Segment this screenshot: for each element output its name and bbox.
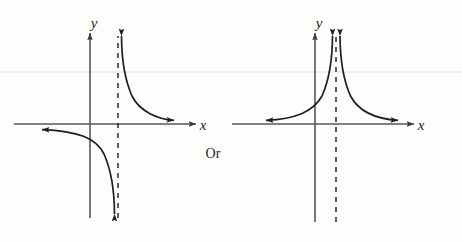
left-panel-x-axis-label: x bbox=[199, 117, 207, 133]
right-panel-x-axis-label: x bbox=[417, 117, 425, 133]
figure-root: y x Or y x bbox=[0, 0, 462, 241]
left-panel-upper-right-branch bbox=[122, 36, 175, 120]
right-panel-left-branch bbox=[266, 36, 333, 120]
left-panel-lower-left-branch bbox=[42, 130, 115, 214]
right-panel-right-branch bbox=[340, 36, 398, 120]
right-panel: y x bbox=[232, 15, 425, 222]
left-panel: y x bbox=[14, 15, 207, 218]
connector-label: Or bbox=[206, 146, 221, 161]
asymptote-figure: y x Or y x bbox=[0, 0, 462, 241]
left-panel-y-axis-label: y bbox=[89, 15, 98, 31]
right-panel-y-axis-label: y bbox=[314, 15, 323, 31]
